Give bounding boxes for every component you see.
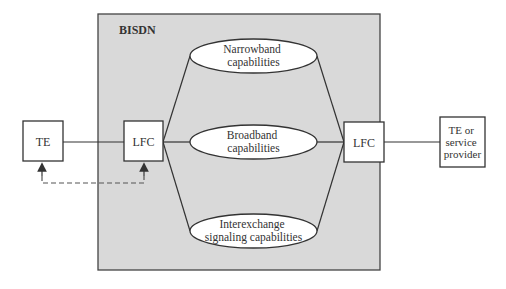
te-service-provider-label: TE or service provider <box>444 124 482 160</box>
lfc-right-label: LFC <box>353 136 375 150</box>
lfc-left-label: LFC <box>132 135 154 149</box>
narrowband-label: Narrowband capabilities <box>223 43 283 69</box>
broadband-label: Broadband capabilities <box>227 129 280 155</box>
bisdn-label: BISDN <box>119 23 156 37</box>
bisdn-diagram: BISDN TE LFC LFC TE or service provider … <box>0 0 506 289</box>
te-label: TE <box>36 135 51 149</box>
